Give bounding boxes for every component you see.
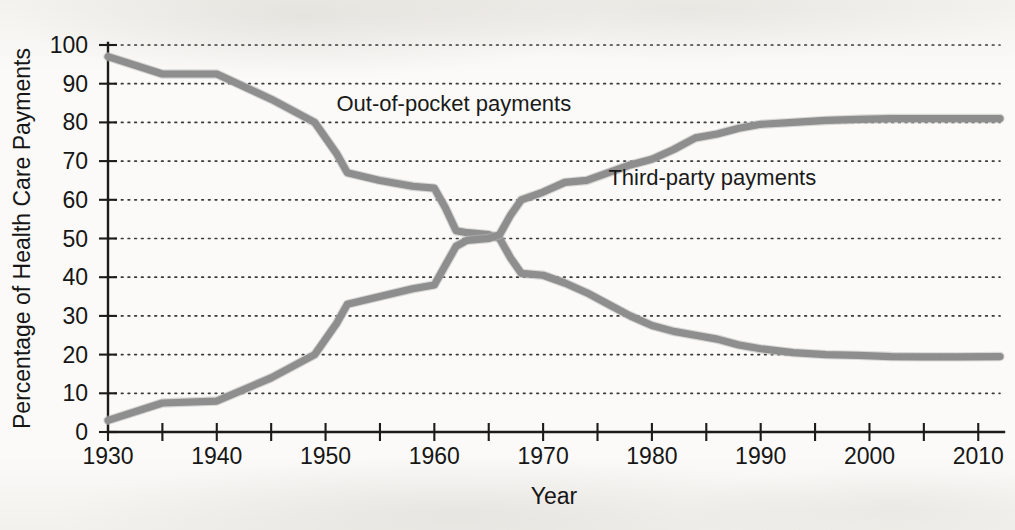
y-tick-label-20: 20 — [62, 342, 88, 368]
y-tick-label-60: 60 — [62, 187, 88, 213]
y-tick-label-10: 10 — [62, 380, 88, 406]
series-label-third-party-payments: Third-party payments — [608, 165, 816, 190]
y-tick-label-70: 70 — [62, 148, 88, 174]
y-tick-label-90: 90 — [62, 71, 88, 97]
axis-titles-group: YearPercentage of Health Care Payments — [9, 48, 578, 509]
x-tick-label-1940: 1940 — [191, 443, 242, 469]
y-tick-label-100: 100 — [50, 32, 88, 58]
x-tick-label-1990: 1990 — [735, 443, 786, 469]
y-tick-label-0: 0 — [75, 419, 88, 445]
y-tick-label-50: 50 — [62, 226, 88, 252]
chart-plot-area: 0102030405060708090100193019401950196019… — [0, 0, 1015, 530]
x-tick-label-2010: 2010 — [953, 443, 1004, 469]
y-axis-title: Percentage of Health Care Payments — [9, 48, 35, 429]
chart-figure: 0102030405060708090100193019401950196019… — [0, 0, 1015, 530]
series-line-third-party-payments — [108, 119, 1000, 421]
x-tick-label-2000: 2000 — [844, 443, 895, 469]
y-tick-label-30: 30 — [62, 303, 88, 329]
series-annotations-group: Out-of-pocket paymentsThird-party paymen… — [336, 91, 816, 190]
x-tick-label-1960: 1960 — [409, 443, 460, 469]
line-chart-svg: 0102030405060708090100193019401950196019… — [0, 0, 1015, 530]
x-tick-label-1930: 1930 — [82, 443, 133, 469]
x-axis-title: Year — [531, 483, 578, 509]
x-tick-label-1970: 1970 — [518, 443, 569, 469]
x-tick-label-1980: 1980 — [626, 443, 677, 469]
y-tick-label-80: 80 — [62, 109, 88, 135]
y-tick-label-40: 40 — [62, 264, 88, 290]
series-label-out-of-pocket-payments: Out-of-pocket payments — [336, 91, 571, 116]
series-line-shadow-third-party-payments — [108, 119, 1000, 421]
x-tick-label-1950: 1950 — [300, 443, 351, 469]
